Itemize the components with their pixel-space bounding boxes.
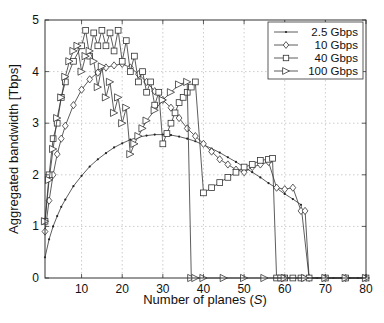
legend-label: 40 Gbps	[315, 52, 359, 64]
y-tick-label: 5	[32, 13, 39, 27]
y-tick-label: 1	[32, 219, 39, 233]
x-tick-label: 10	[75, 282, 89, 296]
y-axis-label: Aggregated bandwidth [Tbps]	[6, 64, 21, 234]
x-tick-label: 70	[319, 282, 333, 296]
legend-label: 10 Gbps	[315, 39, 359, 51]
y-tick-labels: 012345	[32, 13, 39, 285]
series-2-5-gbps	[44, 133, 367, 279]
legend-label: 2.5 Gbps	[311, 26, 358, 38]
series-10-gbps	[42, 60, 369, 281]
legend-label: 100 Gbps	[308, 65, 358, 77]
x-tick-label: 20	[116, 282, 130, 296]
bandwidth-chart: 1020304050607080 012345 Number of planes…	[0, 0, 384, 323]
y-tick-label: 3	[32, 116, 39, 130]
y-tick-label: 2	[32, 168, 39, 182]
x-tick-label: 80	[359, 282, 373, 296]
x-tick-label: 60	[278, 282, 292, 296]
legend: 2.5 Gbps10 Gbps40 Gbps100 Gbps	[268, 22, 363, 79]
x-axis-label: Number of planes (S)	[143, 292, 267, 307]
y-tick-label: 0	[32, 271, 39, 285]
y-tick-label: 4	[32, 65, 39, 79]
